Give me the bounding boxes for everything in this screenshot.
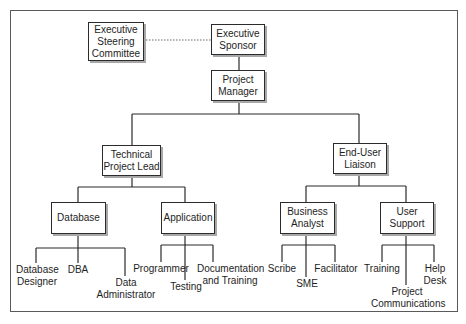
leaf-training: Training xyxy=(363,263,401,275)
leaf-project-communications: Project Communications xyxy=(371,286,443,310)
leaf-sme: SME xyxy=(294,278,320,290)
node-end-user-liaison: End-User Liaison xyxy=(333,143,387,174)
leaf-database-designer: Database Designer xyxy=(16,264,58,288)
leaf-help-desk: Help Desk xyxy=(421,263,449,287)
node-technical-project-lead: Technical Project Lead xyxy=(102,145,161,176)
node-executive-sponsor: Executive Sponsor xyxy=(211,24,265,55)
leaf-programmer: Programmer xyxy=(133,263,189,275)
node-executive-steering-committee: Executive Steering Committee xyxy=(88,22,144,61)
leaf-documentation-and-training: Documentation and Training xyxy=(197,263,263,287)
node-application: Application xyxy=(161,202,215,234)
leaf-scribe: Scribe xyxy=(266,263,298,275)
node-project-manager: Project Manager xyxy=(211,70,265,101)
node-user-support: User Support xyxy=(380,202,434,234)
node-database: Database xyxy=(51,202,106,234)
leaf-facilitator: Facilitator xyxy=(313,263,359,275)
leaf-dba: DBA xyxy=(66,264,90,276)
node-business-analyst: Business Analyst xyxy=(280,202,335,234)
leaf-data-administrator: Data Administrator xyxy=(96,277,156,301)
